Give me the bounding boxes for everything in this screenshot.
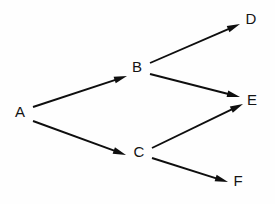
edge-line: [152, 108, 235, 148]
nodes-layer: ABCDEF: [15, 10, 257, 189]
edge-c-to-f: [152, 158, 228, 182]
edge-line: [150, 28, 232, 63]
edge-a-to-b: [33, 76, 127, 107]
directed-graph: ABCDEF: [0, 0, 275, 204]
node-label-f: F: [233, 172, 242, 189]
arrowhead-icon: [114, 76, 127, 83]
node-label-e: E: [247, 91, 257, 108]
node-label-d: D: [246, 10, 257, 27]
edge-b-to-e: [150, 74, 240, 97]
edge-line: [33, 79, 118, 107]
arrowhead-icon: [227, 90, 240, 97]
arrowhead-icon: [227, 24, 240, 32]
arrowhead-icon: [215, 175, 228, 182]
edge-a-to-c: [33, 121, 126, 155]
edge-line: [152, 158, 219, 179]
edge-line: [150, 74, 231, 95]
node-label-c: C: [134, 143, 145, 160]
arrowhead-icon: [113, 147, 126, 155]
diagram-canvas: ABCDEF: [0, 0, 275, 204]
arrowhead-icon: [230, 104, 243, 113]
node-label-b: B: [132, 58, 142, 75]
edge-c-to-e: [152, 104, 243, 148]
node-label-a: A: [15, 103, 25, 120]
edge-b-to-d: [150, 24, 240, 63]
edge-line: [33, 121, 118, 152]
